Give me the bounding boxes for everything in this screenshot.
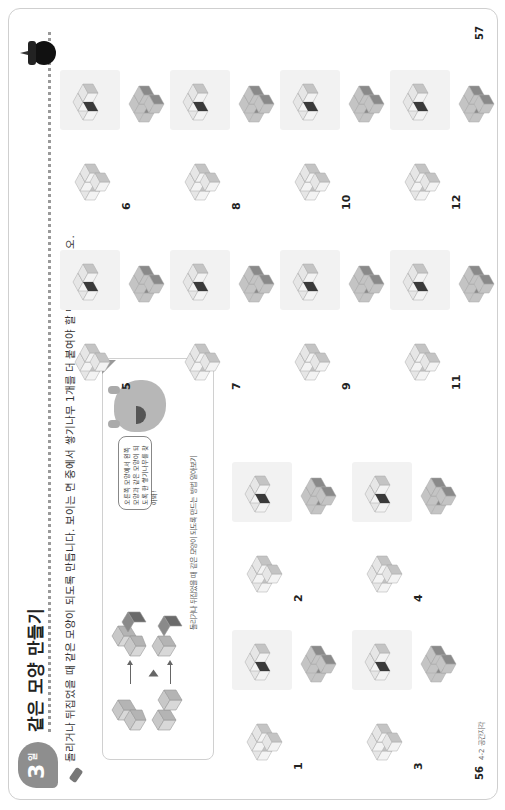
mascot-pirate-icon (20, 38, 58, 68)
question-number: 8 (230, 202, 243, 210)
answer-area[interactable] (280, 70, 340, 130)
answer-area[interactable] (170, 250, 230, 310)
reference-shape (242, 710, 286, 760)
reference-shape (362, 542, 406, 592)
target-shape[interactable] (360, 468, 404, 512)
dotted-divider (48, 32, 51, 732)
reference-shape (362, 710, 406, 760)
rotated-shape (236, 78, 280, 122)
rotated-shape (298, 638, 342, 682)
reference-shape (400, 150, 444, 200)
rotated-shape (126, 78, 170, 122)
reference-shape (180, 150, 224, 200)
rotated-shape (418, 638, 462, 682)
question-number: 9 (340, 382, 353, 390)
question-number: 6 (120, 202, 133, 210)
example-shape-a (112, 690, 146, 730)
arrow-right-icon (170, 662, 171, 684)
arrow-right-icon (130, 662, 131, 684)
target-shape[interactable] (68, 256, 112, 300)
answer-area[interactable] (390, 70, 450, 130)
page-number-left: 56 (474, 766, 485, 780)
reference-shape (290, 330, 334, 380)
question-number: 3 (412, 762, 425, 770)
target-shape[interactable] (240, 636, 284, 680)
speech-bubble: 오른쪽 모양에서 왼쪽 모양과 같은 모양이 되도록 한 쌓기나무를 찾아봐! (118, 436, 152, 510)
answer-area[interactable] (390, 250, 450, 310)
page-number-right: 57 (474, 26, 485, 40)
target-shape[interactable] (240, 468, 284, 512)
target-shape[interactable] (288, 76, 332, 120)
example-shape-b-result (152, 612, 188, 656)
reference-shape (70, 330, 114, 380)
rotated-shape (346, 78, 390, 122)
question-number: 2 (292, 594, 305, 602)
rotated-shape (346, 258, 390, 302)
answer-area[interactable] (170, 70, 230, 130)
reference-shape (180, 330, 224, 380)
example-caption: 돌리거나 뒤집었을 때 같은 모양이 되도록 만드는 방법 알아보기 (188, 456, 198, 630)
rotated-shape (456, 258, 500, 302)
reference-shape (242, 542, 286, 592)
target-shape[interactable] (398, 256, 442, 300)
example-shape-a-result (112, 612, 148, 656)
target-shape[interactable] (360, 636, 404, 680)
answer-area[interactable] (60, 250, 120, 310)
question-number: 5 (120, 382, 133, 390)
question-number: 10 (340, 195, 353, 210)
rotated-shape (126, 258, 170, 302)
example-shape-b (152, 690, 186, 730)
question-number: 7 (230, 382, 243, 390)
reference-shape (400, 330, 444, 380)
target-shape[interactable] (178, 76, 222, 120)
target-shape[interactable] (288, 256, 332, 300)
page-title: 같은 모양 만들기 (22, 608, 47, 732)
question-number: 11 (450, 375, 463, 390)
page-label-left: 4-2 공간지각 (476, 722, 486, 760)
question-number: 1 (292, 762, 305, 770)
rotated-shape (298, 470, 342, 514)
answer-area[interactable] (232, 462, 292, 522)
answer-area[interactable] (280, 250, 340, 310)
target-shape[interactable] (68, 76, 112, 120)
day-unit: 일 (26, 753, 39, 761)
target-shape[interactable] (398, 76, 442, 120)
target-shape[interactable] (178, 256, 222, 300)
answer-area[interactable] (232, 630, 292, 690)
answer-area[interactable] (352, 630, 412, 690)
day-badge: 3 일 (18, 742, 58, 788)
arrow-up-icon (149, 670, 159, 677)
rotated-shape (456, 78, 500, 122)
day-number: 3 (24, 764, 49, 779)
question-number: 12 (450, 195, 463, 210)
rotated-shape (418, 470, 462, 514)
reference-shape (70, 150, 114, 200)
rotated-shape (236, 258, 280, 302)
workbook-spread: 3 일 같은 모양 만들기 돌리거나 뒤집었을 때 같은 모양이 되도록 만듭니… (0, 0, 505, 810)
answer-area[interactable] (352, 462, 412, 522)
answer-area[interactable] (60, 70, 120, 130)
reference-shape (290, 150, 334, 200)
question-number: 4 (412, 594, 425, 602)
